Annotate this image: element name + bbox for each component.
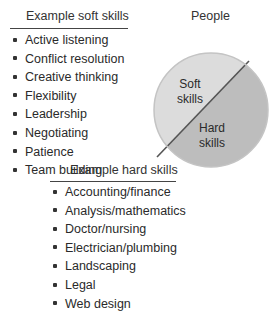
hard-skills-rule <box>50 181 176 182</box>
list-item: Landscaping <box>50 257 186 276</box>
bullet-icon <box>53 283 57 287</box>
bullet-icon <box>53 264 57 268</box>
bullet-icon <box>53 190 57 194</box>
hard-skills-pie-label: Hard skills <box>189 121 235 151</box>
soft-skills-pie-label: Soft skills <box>168 77 212 107</box>
bullet-icon <box>53 245 57 249</box>
list-item: Analysis/mathematics <box>50 202 186 221</box>
list-item: Accounting/finance <box>50 183 186 202</box>
bullet-icon <box>53 301 57 305</box>
hard-skills-heading: Example hard skills <box>70 163 178 177</box>
list-item: Legal <box>50 276 186 295</box>
list-item: Web design <box>50 295 186 313</box>
list-item: Electrician/plumbing <box>50 239 186 258</box>
list-item: Doctor/nursing <box>50 220 186 239</box>
bullet-icon <box>53 208 57 212</box>
bullet-icon <box>53 227 57 231</box>
hard-skills-list: Accounting/finance Analysis/mathematics … <box>50 183 186 313</box>
